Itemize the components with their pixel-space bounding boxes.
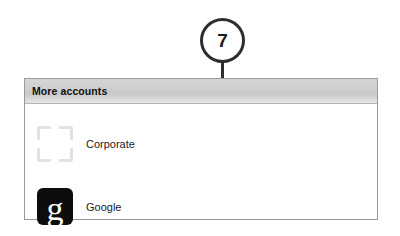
account-label-corporate: Corporate bbox=[86, 138, 135, 150]
corporate-brackets-icon bbox=[37, 126, 73, 162]
panel-header: More accounts bbox=[25, 79, 377, 104]
panel-header-title: More accounts bbox=[32, 85, 107, 97]
account-list-item-corporate[interactable]: Corporate bbox=[37, 126, 135, 162]
callout-number-label: 7 bbox=[217, 31, 228, 50]
panel-body: Corporate g Google bbox=[25, 104, 377, 219]
google-g-icon: g bbox=[37, 188, 73, 225]
account-list-item-google[interactable]: g Google bbox=[37, 188, 121, 225]
more-accounts-panel: More accounts Corporate g Google bbox=[24, 78, 378, 220]
account-label-google: Google bbox=[86, 201, 121, 213]
callout-marker-7: 7 bbox=[200, 18, 245, 63]
google-g-glyph: g bbox=[47, 192, 64, 226]
